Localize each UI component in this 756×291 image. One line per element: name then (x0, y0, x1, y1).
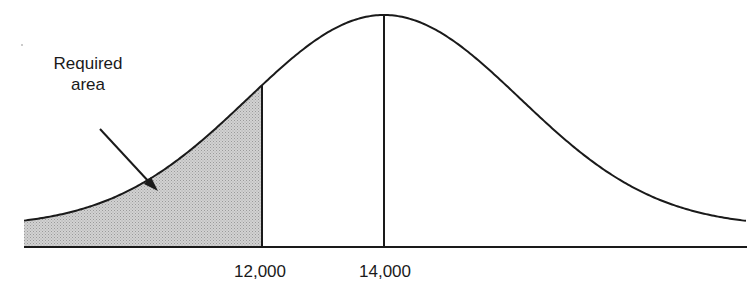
tick-label-12000: 12,000 (234, 263, 286, 280)
required-area-shading (24, 85, 262, 247)
annotation-arrow (100, 129, 150, 183)
tick-label-14000: 14,000 (359, 263, 411, 280)
annotation-line-2: area (38, 74, 138, 95)
required-area-label: Required area (38, 53, 138, 95)
annotation-line-1: Required (38, 53, 138, 74)
speck (21, 44, 23, 46)
normal-curve-diagram (0, 0, 756, 291)
